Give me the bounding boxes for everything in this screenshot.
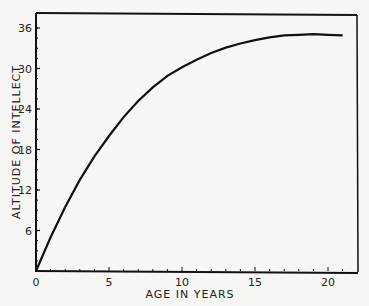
y-tick-label: 6 <box>25 225 32 238</box>
line-chart: 61218243036 05101520 AGE IN YEARS ALTITU… <box>0 0 369 306</box>
x-tick-label: 0 <box>33 276 40 289</box>
x-axis-label: AGE IN YEARS <box>145 288 234 301</box>
x-tick-label: 5 <box>106 276 113 289</box>
y-tick-label: 36 <box>18 22 32 35</box>
x-tick-label: 15 <box>248 276 262 289</box>
y-axis-label: ALTITUDE OF INTELLECT <box>10 65 23 219</box>
plot-frame <box>35 13 358 273</box>
x-tick-label: 20 <box>321 276 335 289</box>
data-line <box>36 34 343 271</box>
